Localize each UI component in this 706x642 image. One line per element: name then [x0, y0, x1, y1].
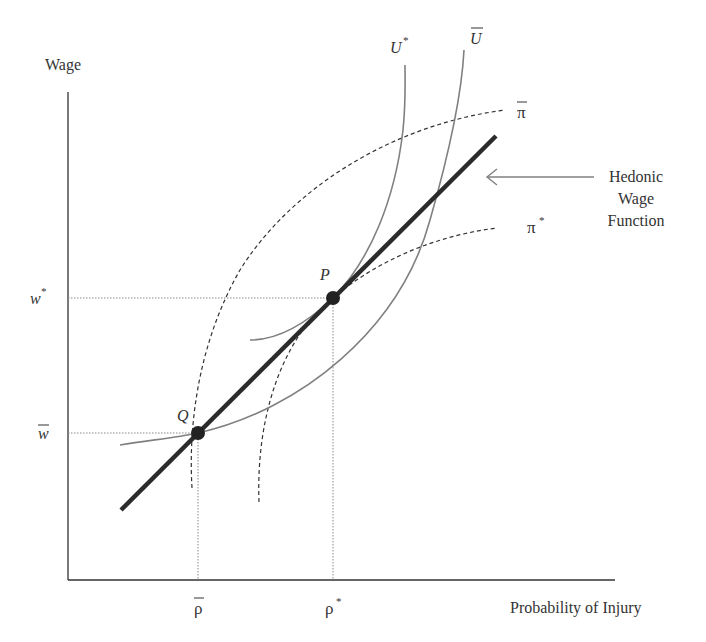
- isoprofit-curve-pi-star: [259, 228, 497, 502]
- svg-text:π: π: [517, 103, 526, 122]
- w-star-label: w *: [30, 285, 47, 307]
- arrow-icon: [487, 169, 594, 185]
- indifference-curve-u-bar: [120, 50, 464, 445]
- svg-text:π: π: [527, 218, 536, 237]
- hedonic-wage-function-label: Hedonic Wage Function: [608, 168, 665, 229]
- u-bar-label: U: [470, 28, 483, 47]
- point-p-marker: [326, 291, 340, 305]
- svg-text:U: U: [470, 30, 483, 47]
- svg-text:Wage: Wage: [618, 190, 654, 208]
- w-bar-label: w: [38, 425, 49, 442]
- rho-bar-label: ρ: [194, 598, 204, 618]
- svg-text:Hedonic: Hedonic: [609, 168, 663, 185]
- svg-text:U: U: [390, 39, 403, 56]
- isoprofit-curve-pi-bar: [191, 110, 505, 488]
- svg-text:*: *: [336, 595, 342, 607]
- point-q-marker: [191, 426, 205, 440]
- pi-bar-label: π: [517, 102, 527, 122]
- svg-text:Function: Function: [608, 212, 665, 229]
- y-axis-label: Wage: [45, 56, 81, 74]
- x-axis-label: Probability of Injury: [510, 599, 642, 617]
- svg-text:ρ: ρ: [194, 599, 202, 618]
- u-star-label: U *: [390, 34, 409, 56]
- point-p-label: P: [319, 266, 330, 283]
- hedonic-wage-function-line: [121, 136, 496, 510]
- hedonic-wage-diagram: Wage Probability of Injury w * w ρ ρ * P…: [0, 0, 706, 642]
- svg-text:*: *: [41, 285, 47, 297]
- point-q-label: Q: [177, 407, 189, 424]
- svg-text:w: w: [38, 425, 49, 442]
- rho-star-label: ρ *: [325, 595, 342, 618]
- svg-text:*: *: [539, 214, 545, 226]
- svg-text:w: w: [30, 290, 41, 307]
- svg-text:*: *: [403, 34, 409, 46]
- svg-text:ρ: ρ: [325, 599, 333, 618]
- pi-star-label: π *: [527, 214, 545, 237]
